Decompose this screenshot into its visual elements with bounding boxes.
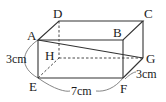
vertex-label-e: E bbox=[29, 79, 37, 94]
arc-length-ef-right bbox=[96, 78, 123, 91]
vertex-label-a: A bbox=[27, 28, 37, 43]
dimension-label-depth: 3cm bbox=[136, 67, 157, 81]
vertex-label-d: D bbox=[53, 6, 62, 21]
vertex-label-h: H bbox=[45, 48, 54, 63]
top-face-abcd bbox=[38, 21, 143, 40]
dimension-label-height: 3cm bbox=[6, 52, 27, 66]
vertex-label-g: G bbox=[146, 51, 155, 66]
vertex-label-b: B bbox=[113, 25, 122, 40]
vertex-label-f: F bbox=[120, 81, 127, 96]
vertex-label-c: C bbox=[144, 6, 153, 21]
rectangular-prism-diagram: A B C D E F G H 3cm 7cm 3cm bbox=[0, 0, 166, 102]
arc-depth-fg bbox=[125, 72, 136, 79]
dimension-label-length: 7cm bbox=[71, 84, 92, 98]
arc-length-ef bbox=[38, 78, 70, 91]
